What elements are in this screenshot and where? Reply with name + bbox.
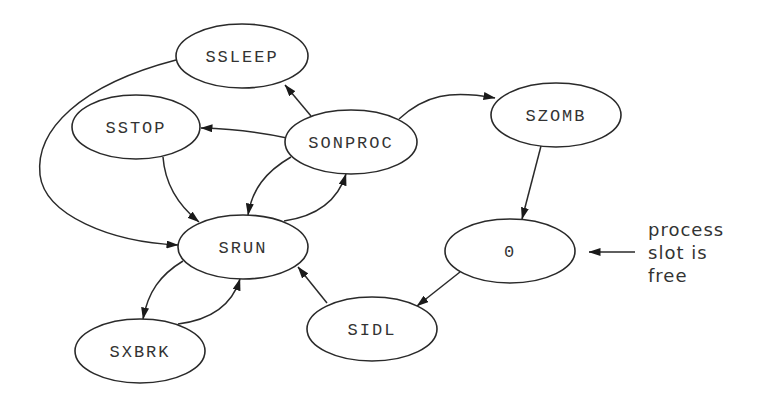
edge-sonproc-to-srun (248, 157, 291, 215)
annotation-line: free (648, 264, 724, 287)
node-label: SSLEEP (205, 48, 278, 67)
node-label: SXBRK (109, 343, 170, 362)
edge-srun-to-sxbrk (143, 261, 183, 319)
annotation-line: process (648, 218, 724, 241)
node-szomb: SZOMB (491, 83, 621, 147)
node-sonproc: SONPROC (285, 110, 417, 174)
node-srun: SRUN (178, 215, 308, 279)
edge-szomb-to-zero (522, 146, 541, 219)
edge-zero-to-sidl (417, 272, 460, 306)
edge-sxbrk-to-srun (178, 279, 240, 324)
state-diagram: SSLEEP SSTOP SONPROC SZOMB SRUN 0 SIDL S… (0, 0, 773, 402)
node-label: SIDL (348, 321, 397, 340)
edge-sonproc-to-szomb (399, 94, 495, 119)
node-label: SZOMB (525, 107, 586, 126)
node-sxbrk: SXBRK (75, 319, 205, 383)
edge-srun-to-sonproc (284, 174, 346, 221)
edge-sstop-to-srun (163, 157, 199, 222)
edge-sonproc-to-ssleep (285, 85, 311, 116)
node-zero: 0 (445, 219, 575, 283)
annotation-line: slot is (648, 241, 724, 264)
node-sidl: SIDL (307, 297, 437, 361)
edge-sonproc-to-sstop (201, 128, 287, 138)
node-ssleep: SSLEEP (176, 24, 308, 88)
edge-sidl-to-srun (298, 267, 327, 303)
annotation-process-slot-free: process slot is free (648, 218, 724, 287)
node-sstop: SSTOP (72, 95, 200, 159)
node-label: 0 (504, 243, 516, 262)
node-label: SSTOP (105, 119, 166, 138)
node-label: SONPROC (308, 134, 393, 153)
node-label: SRUN (219, 239, 268, 258)
